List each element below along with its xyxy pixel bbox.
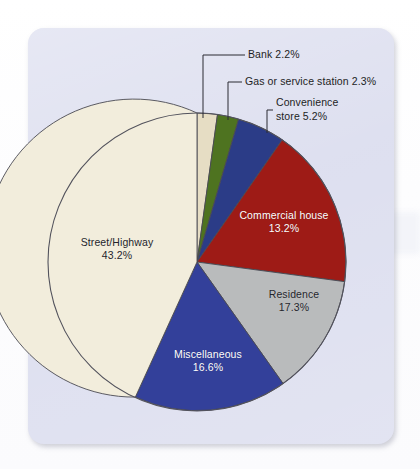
slice-label-residence-value: 17.3% <box>252 301 336 314</box>
callout-label-gas-or-service-station-text: Gas or service station 2.3% <box>245 75 376 89</box>
slice-label-street-highway-value: 43.2% <box>65 249 169 262</box>
slice-label-miscellaneous-value: 16.6% <box>161 361 255 374</box>
callout-label-bank: Bank 2.2% <box>248 48 300 62</box>
callout-label-convenience-store-line-2: store 5.2% <box>276 110 372 124</box>
callout-label-bank-text: Bank 2.2% <box>248 48 300 62</box>
slice-label-miscellaneous-name: Miscellaneous <box>161 348 255 361</box>
slice-label-street-highway: Street/Highway 43.2% <box>65 236 169 263</box>
callout-label-convenience-store: Convenience store 5.2% <box>276 96 372 124</box>
slice-label-residence-name: Residence <box>252 288 336 301</box>
leader-line-bank <box>203 55 245 118</box>
callout-label-gas-or-service-station: Gas or service station 2.3% <box>245 75 376 89</box>
slice-label-commercial-house: Commercial house 13.2% <box>232 209 336 236</box>
slice-label-miscellaneous: Miscellaneous 16.6% <box>161 348 255 375</box>
slice-label-street-highway-name: Street/Highway <box>65 236 169 249</box>
figure-root: Bank 2.2% Gas or service station 2.3% Co… <box>0 0 420 469</box>
slice-label-commercial-house-name: Commercial house <box>232 209 336 222</box>
pie-chart <box>0 0 420 469</box>
slice-label-residence: Residence 17.3% <box>252 288 336 315</box>
leader-line-gas-or-service-station <box>228 82 242 120</box>
callout-label-convenience-store-line-1: Convenience <box>276 96 372 110</box>
leader-line-convenience-store <box>267 110 273 133</box>
slice-label-commercial-house-value: 13.2% <box>232 222 336 235</box>
